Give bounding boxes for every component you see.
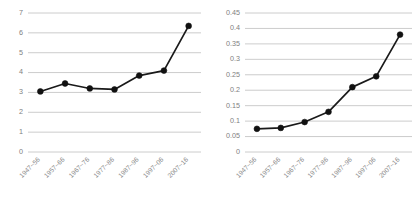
y-axis-tick-label: 5 bbox=[19, 48, 23, 57]
y-axis-tick-label: 0.3 bbox=[230, 54, 240, 63]
data-point-marker bbox=[186, 23, 192, 29]
y-axis-tick-label: 4 bbox=[19, 67, 23, 76]
x-axis-tick-label: 1947~56 bbox=[234, 156, 257, 179]
data-point-marker bbox=[349, 84, 355, 90]
data-point-marker bbox=[37, 89, 43, 95]
x-axis-tick-label: 1957~66 bbox=[258, 156, 281, 179]
data-point-marker bbox=[326, 109, 332, 115]
data-point-marker bbox=[254, 126, 260, 132]
y-axis-tick-label: 0.4 bbox=[230, 23, 240, 32]
x-axis-tick-label: 1947~56 bbox=[18, 156, 41, 179]
data-point-marker bbox=[302, 119, 308, 125]
left-chart-plot-area: 012345671947~561957~661967~761977~861987… bbox=[0, 0, 209, 198]
x-axis-tick-label: 1977~86 bbox=[306, 156, 329, 179]
x-axis-tick-label: 1997~06 bbox=[141, 156, 164, 179]
y-axis-tick-label: 0.2 bbox=[230, 85, 240, 94]
y-axis-tick-label: 0.05 bbox=[226, 131, 240, 140]
x-axis-tick-label: 1957~66 bbox=[43, 156, 66, 179]
x-axis-tick-label: 1967~76 bbox=[282, 156, 305, 179]
x-axis-tick-label: 1987~96 bbox=[330, 156, 353, 179]
x-axis-tick-label: 2007~16 bbox=[166, 156, 189, 179]
data-point-marker bbox=[136, 73, 142, 79]
x-axis-tick-label: 1997~06 bbox=[354, 156, 377, 179]
y-axis-tick-label: 0.15 bbox=[226, 101, 240, 110]
y-axis-tick-label: 0.25 bbox=[226, 70, 240, 79]
y-axis-tick-label: 7 bbox=[19, 8, 23, 17]
data-point-marker bbox=[62, 81, 68, 87]
x-axis-tick-label: 1967~76 bbox=[67, 156, 90, 179]
right-chart-plot-area: 00.050.10.150.20.250.30.350.40.451947~56… bbox=[209, 0, 418, 198]
x-axis-tick-label: 1977~86 bbox=[92, 156, 115, 179]
left-chart-panel: 012345671947~561957~661967~761977~861987… bbox=[0, 0, 209, 198]
y-axis-tick-label: 3 bbox=[19, 87, 23, 96]
data-point-marker bbox=[87, 86, 93, 92]
y-axis-tick-label: 6 bbox=[19, 28, 23, 37]
y-axis-tick-label: 0 bbox=[19, 147, 23, 156]
data-point-marker bbox=[278, 125, 284, 131]
x-axis-tick-label: 2007~16 bbox=[378, 156, 401, 179]
right-chart-svg: 00.050.10.150.20.250.30.350.40.451947~56… bbox=[209, 0, 418, 198]
y-axis-tick-label: 1 bbox=[19, 127, 23, 136]
data-point-marker bbox=[161, 68, 167, 74]
data-point-marker bbox=[397, 32, 403, 38]
y-axis-tick-label: 0.45 bbox=[226, 8, 240, 17]
left-chart-svg: 012345671947~561957~661967~761977~861987… bbox=[0, 0, 209, 198]
y-axis-tick-label: 0 bbox=[236, 147, 240, 156]
data-point-marker bbox=[373, 73, 379, 79]
x-axis-tick-label: 1987~96 bbox=[117, 156, 140, 179]
right-chart-panel: 00.050.10.150.20.250.30.350.40.451947~56… bbox=[209, 0, 418, 198]
figure-container: 012345671947~561957~661967~761977~861987… bbox=[0, 0, 418, 198]
y-axis-tick-label: 2 bbox=[19, 107, 23, 116]
y-axis-tick-label: 0.35 bbox=[226, 39, 240, 48]
y-axis-tick-label: 0.1 bbox=[230, 116, 240, 125]
data-point-marker bbox=[112, 87, 118, 93]
